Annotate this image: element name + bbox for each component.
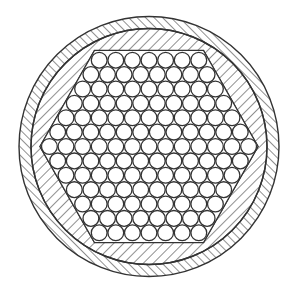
strand-circle	[224, 110, 240, 126]
strand-circle	[174, 52, 190, 68]
strand-circle	[149, 67, 165, 83]
strand-circle	[91, 225, 107, 241]
strand-circle	[183, 67, 199, 83]
strand-circle	[108, 110, 124, 126]
strand-circle	[116, 124, 132, 140]
strand-circle	[191, 52, 207, 68]
strand-circle	[158, 225, 174, 241]
strand-circle	[158, 52, 174, 68]
strand-circle	[216, 153, 232, 169]
strand-circle	[83, 124, 99, 140]
strand-circle	[50, 124, 66, 140]
strand-circle	[66, 95, 82, 111]
strand-circle	[166, 124, 182, 140]
strand-circle	[141, 139, 157, 155]
strand-circle	[149, 210, 165, 226]
strand-circle	[199, 210, 215, 226]
strand-circle	[133, 124, 149, 140]
strand-circle	[124, 139, 140, 155]
strand-circle	[166, 95, 182, 111]
strand-circle	[149, 153, 165, 169]
strand-circle	[58, 110, 74, 126]
strand-circle	[100, 210, 116, 226]
strand-circle	[232, 124, 248, 140]
strand-circle	[116, 67, 132, 83]
strand-circle	[199, 124, 215, 140]
strand-circle	[133, 67, 149, 83]
strand-circle	[141, 196, 157, 212]
strand-circle	[183, 95, 199, 111]
strand-circle	[100, 182, 116, 198]
strand-circle	[166, 67, 182, 83]
strand-circle	[191, 110, 207, 126]
strand-circle	[149, 95, 165, 111]
strand-circle	[141, 225, 157, 241]
strand-circle	[75, 196, 91, 212]
strand-circle	[232, 153, 248, 169]
strand-circle	[116, 210, 132, 226]
strand-circle	[199, 95, 215, 111]
strand-circle	[208, 167, 224, 183]
strand-circle	[133, 153, 149, 169]
strand-circle	[116, 95, 132, 111]
strand-circle	[100, 153, 116, 169]
strand-circle	[108, 139, 124, 155]
strand-circle	[208, 81, 224, 97]
strand-circle	[199, 153, 215, 169]
strand-circle	[158, 81, 174, 97]
strand-circle	[174, 196, 190, 212]
strand-circle	[199, 182, 215, 198]
strand-circle	[141, 167, 157, 183]
strand-circle	[216, 124, 232, 140]
strand-circle	[199, 67, 215, 83]
strand-circle	[83, 182, 99, 198]
strand-circle	[75, 139, 91, 155]
strand-circle	[124, 81, 140, 97]
strand-circle	[91, 81, 107, 97]
strand-circle	[75, 81, 91, 97]
strand-circle	[58, 167, 74, 183]
strand-circle	[100, 124, 116, 140]
cable-cross-section-diagram	[0, 0, 299, 293]
strand-circle	[191, 139, 207, 155]
strand-circle	[124, 225, 140, 241]
strand-circle	[108, 225, 124, 241]
strand-circle	[216, 95, 232, 111]
strand-circle	[191, 167, 207, 183]
strand-circle	[208, 110, 224, 126]
strand-circle	[216, 182, 232, 198]
strand-circle	[183, 124, 199, 140]
strand-circle	[158, 110, 174, 126]
strand-circle	[124, 110, 140, 126]
strand-circle	[91, 139, 107, 155]
strand-circle	[183, 153, 199, 169]
strand-circle	[75, 167, 91, 183]
strand-circle	[166, 210, 182, 226]
strand-circle	[224, 139, 240, 155]
strand-circle	[174, 139, 190, 155]
strand-circle	[174, 81, 190, 97]
strand-circle	[66, 182, 82, 198]
strand-circle	[116, 153, 132, 169]
strand-circle	[108, 196, 124, 212]
strand-circle	[174, 167, 190, 183]
strand-circle	[191, 196, 207, 212]
strand-circle	[100, 67, 116, 83]
strand-circle	[166, 182, 182, 198]
strand-circle	[224, 167, 240, 183]
strand-circle	[158, 167, 174, 183]
strand-circle	[174, 110, 190, 126]
strand-circle	[183, 210, 199, 226]
strand-circle	[83, 210, 99, 226]
strand-circle	[108, 52, 124, 68]
strand-circle	[133, 210, 149, 226]
strand-circle	[149, 124, 165, 140]
strand-circle	[191, 225, 207, 241]
strand-circle	[83, 95, 99, 111]
strand-circle	[141, 81, 157, 97]
strand-circle	[133, 182, 149, 198]
strand-circle	[158, 196, 174, 212]
strand-circle	[100, 95, 116, 111]
strand-circle	[75, 110, 91, 126]
strand-circle	[91, 110, 107, 126]
